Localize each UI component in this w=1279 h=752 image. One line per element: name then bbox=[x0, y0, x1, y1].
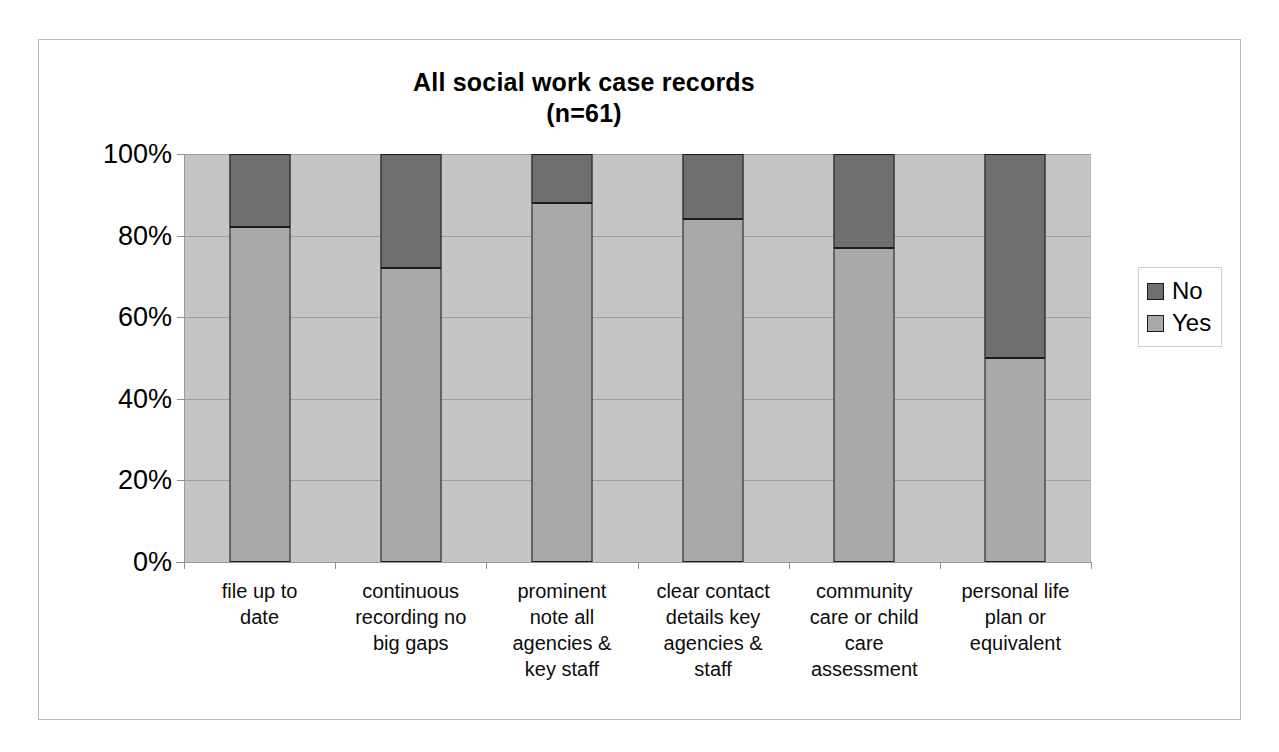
category-label-line: note all bbox=[482, 604, 642, 630]
category-label-line: community bbox=[784, 578, 944, 604]
category-label-line: care or child bbox=[784, 604, 944, 630]
stacked-bar[interactable] bbox=[229, 154, 290, 562]
y-axis-tick-label: 20% bbox=[118, 467, 172, 494]
x-axis-category-label: prominentnote allagencies &key staff bbox=[482, 578, 642, 682]
bar-column[interactable]: personal lifeplan orequivalent bbox=[940, 154, 1091, 562]
category-label-line: clear contact bbox=[633, 578, 793, 604]
stacked-bar[interactable] bbox=[985, 154, 1046, 562]
bar-segment-no[interactable] bbox=[531, 154, 592, 203]
bar-segment-yes[interactable] bbox=[531, 203, 592, 562]
bar-column[interactable]: continuousrecording nobig gaps bbox=[335, 154, 486, 562]
legend-item[interactable]: No bbox=[1147, 275, 1211, 307]
chart-title-main: All social work case records bbox=[413, 68, 755, 96]
y-tick-mark bbox=[177, 236, 184, 237]
y-tick-mark bbox=[177, 480, 184, 481]
stacked-bar[interactable] bbox=[683, 154, 744, 562]
y-axis-tick-label: 60% bbox=[118, 304, 172, 331]
x-axis-category-label: communitycare or childcareassessment bbox=[784, 578, 944, 682]
bar-column[interactable]: communitycare or childcareassessment bbox=[789, 154, 940, 562]
y-axis-tick-label: 100% bbox=[103, 141, 172, 168]
x-tick-mark bbox=[789, 562, 790, 569]
x-axis-category-label: file up todate bbox=[180, 578, 340, 630]
x-tick-mark bbox=[335, 562, 336, 569]
y-tick-mark bbox=[177, 154, 184, 155]
bar-segment-no[interactable] bbox=[380, 154, 441, 268]
y-axis-tick-label: 40% bbox=[118, 385, 172, 412]
bar-column[interactable]: prominentnote allagencies &key staff bbox=[486, 154, 637, 562]
bar-segment-yes[interactable] bbox=[985, 358, 1046, 562]
y-tick-mark bbox=[177, 399, 184, 400]
chart-subtitle: (n=61) bbox=[39, 98, 1129, 129]
chart-figure-frame: All social work case records (n=61) 0%20… bbox=[38, 39, 1241, 720]
chart-title: All social work case records (n=61) bbox=[39, 67, 1129, 129]
x-axis-category-label: continuousrecording nobig gaps bbox=[331, 578, 491, 656]
category-label-line: assessment bbox=[784, 656, 944, 682]
y-axis-tick-label: 80% bbox=[118, 222, 172, 249]
legend-label: No bbox=[1172, 279, 1203, 303]
y-tick-mark bbox=[177, 562, 184, 563]
bar-segment-no[interactable] bbox=[229, 154, 290, 227]
x-tick-mark bbox=[1091, 562, 1092, 569]
bar-segment-yes[interactable] bbox=[380, 268, 441, 562]
x-tick-mark bbox=[940, 562, 941, 569]
bar-segment-no[interactable] bbox=[985, 154, 1046, 358]
stacked-bar[interactable] bbox=[380, 154, 441, 562]
category-label-line: key staff bbox=[482, 656, 642, 682]
stacked-bar[interactable] bbox=[531, 154, 592, 562]
bar-column[interactable]: clear contactdetails keyagencies &staff bbox=[638, 154, 789, 562]
x-tick-mark bbox=[638, 562, 639, 569]
x-axis-category-label: clear contactdetails keyagencies &staff bbox=[633, 578, 793, 682]
x-tick-mark bbox=[486, 562, 487, 569]
bar-segment-yes[interactable] bbox=[834, 248, 895, 562]
category-label-line: plan or bbox=[935, 604, 1095, 630]
category-label-line: personal life bbox=[935, 578, 1095, 604]
category-label-line: agencies & bbox=[633, 630, 793, 656]
legend-item[interactable]: Yes bbox=[1147, 307, 1211, 339]
y-tick-mark bbox=[177, 317, 184, 318]
bar-column[interactable]: file up todate bbox=[184, 154, 335, 562]
category-label-line: recording no bbox=[331, 604, 491, 630]
category-label-line: date bbox=[180, 604, 340, 630]
chart-legend: NoYes bbox=[1138, 267, 1222, 347]
category-label-line: staff bbox=[633, 656, 793, 682]
x-tick-mark bbox=[184, 562, 185, 569]
category-label-line: equivalent bbox=[935, 630, 1095, 656]
bar-segment-no[interactable] bbox=[683, 154, 744, 219]
category-label-line: big gaps bbox=[331, 630, 491, 656]
y-axis-tick-label: 0% bbox=[133, 549, 172, 576]
bar-segment-yes[interactable] bbox=[683, 219, 744, 562]
legend-swatch-icon bbox=[1147, 283, 1164, 300]
category-label-line: details key bbox=[633, 604, 793, 630]
category-label-line: continuous bbox=[331, 578, 491, 604]
plot-wrap: 0%20%40%60%80%100% file up todatecontinu… bbox=[184, 154, 1091, 562]
legend-swatch-icon bbox=[1147, 315, 1164, 332]
category-label-line: care bbox=[784, 630, 944, 656]
x-axis-line bbox=[176, 562, 1092, 563]
bar-segment-no[interactable] bbox=[834, 154, 895, 248]
bar-segment-yes[interactable] bbox=[229, 227, 290, 562]
category-label-line: agencies & bbox=[482, 630, 642, 656]
category-label-line: prominent bbox=[482, 578, 642, 604]
legend-label: Yes bbox=[1172, 311, 1211, 335]
stacked-bar[interactable] bbox=[834, 154, 895, 562]
category-label-line: file up to bbox=[180, 578, 340, 604]
x-axis-category-label: personal lifeplan orequivalent bbox=[935, 578, 1095, 656]
